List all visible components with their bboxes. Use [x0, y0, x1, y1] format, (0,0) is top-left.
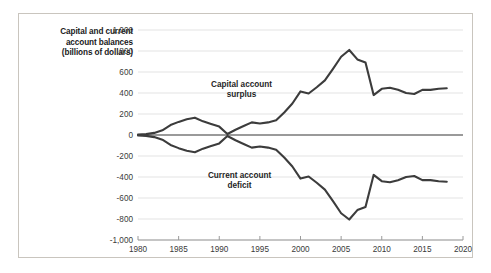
- y-tick-label: 600: [87, 68, 133, 77]
- series-label-capital-line-2: surplus: [199, 90, 284, 100]
- y-tick-label: -400: [87, 173, 133, 182]
- y-tick-label: -200: [87, 152, 133, 161]
- series-line-capital-account-surplus: [138, 50, 447, 135]
- series-label-current-line-1: Current account: [197, 171, 282, 181]
- x-tick-label: 1995: [238, 245, 282, 254]
- x-tick-label: 2015: [400, 245, 444, 254]
- x-tick-label: 2010: [360, 245, 404, 254]
- x-tick-label: 2000: [279, 245, 323, 254]
- x-tick-label: 1980: [116, 245, 160, 254]
- series-label-current-line-2: deficit: [197, 181, 282, 191]
- series-label-current-account: Current account deficit: [197, 171, 282, 191]
- series-label-capital-account: Capital account surplus: [199, 80, 284, 100]
- y-tick-label: 1,000: [87, 26, 133, 35]
- y-tick-label: 0: [87, 131, 133, 140]
- y-tick-label: -1,000: [87, 236, 133, 245]
- chart-figure: Capital and current account balances (bi…: [18, 13, 473, 258]
- x-tick-label: 2005: [319, 245, 363, 254]
- x-tick-label: 2020: [441, 245, 485, 254]
- y-tick-label: -600: [87, 194, 133, 203]
- series-line-current-account-deficit: [138, 136, 447, 220]
- y-tick-label: -800: [87, 215, 133, 224]
- y-tick-label: 800: [87, 47, 133, 56]
- series-label-capital-line-1: Capital account: [199, 80, 284, 90]
- y-tick-label: 200: [87, 110, 133, 119]
- x-tick-label: 1985: [157, 245, 201, 254]
- x-tick-label: 1990: [197, 245, 241, 254]
- y-tick-label: 400: [87, 89, 133, 98]
